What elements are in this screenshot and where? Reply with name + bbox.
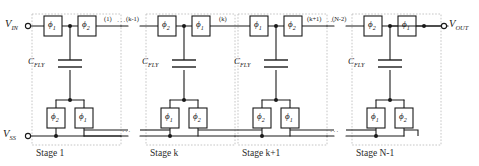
cap-label-sk1: CFLY <box>234 56 250 68</box>
stage-caption-1: Stage 1 <box>36 148 64 158</box>
switch-label-sn-top-left: ϕ2 <box>368 19 376 31</box>
ellipsis-bottom-right: ··· <box>330 128 340 135</box>
node-label-k: (k) <box>219 15 227 22</box>
ellipsis-top-right: ··· <box>327 18 337 25</box>
vss-label: VSS <box>3 128 16 141</box>
node-label-k-1: (k-1) <box>126 15 139 22</box>
switch-label-sk-bot-left: ϕ1 <box>165 111 173 123</box>
switch-label-sk1-bot-left: ϕ2 <box>257 111 265 123</box>
switch-label-s1-bot-left: ϕ2 <box>51 111 59 123</box>
stage-caption-k: Stage k <box>150 148 178 158</box>
stage-vertical-wires <box>70 26 390 100</box>
vin-label: VIN <box>5 18 18 31</box>
node-label-k1: (k+1) <box>307 15 322 22</box>
switch-label-sk-top-right: ϕ1 <box>196 19 204 31</box>
switch-label-sk-top-left: ϕ2 <box>162 19 170 31</box>
interstage-bottom-links <box>84 130 418 136</box>
bottom-switch-boxes <box>47 108 413 128</box>
switch-label-s1-bot-right: ϕ1 <box>79 111 87 123</box>
vout-label: VOUT <box>449 18 468 31</box>
cap-label-sk: CFLY <box>142 56 158 68</box>
switch-label-sk1-top-right: ϕ2 <box>288 19 296 31</box>
switch-label-sk1-top-left: ϕ1 <box>254 19 262 31</box>
switch-label-sn-top-right: ϕ1 <box>402 19 410 31</box>
node-label-1: (1) <box>104 15 112 22</box>
switch-label-s1-top-right: ϕ2 <box>82 19 90 31</box>
switch-label-sn-bot-right: ϕ2 <box>399 111 407 123</box>
ellipsis-top-left: ··· <box>117 18 127 25</box>
switch-label-s1-top-left: ϕ1 <box>48 19 56 31</box>
vout-terminal-node[interactable] <box>441 23 446 28</box>
stage-caption-k1: Stage k+1 <box>242 148 280 158</box>
cap-label-sn: CFLY <box>348 56 364 68</box>
cap-label-s1: CFLY <box>28 56 44 68</box>
switch-label-sk1-bot-right: ϕ1 <box>285 111 293 123</box>
vin-terminal-node[interactable] <box>25 23 30 28</box>
switch-label-sn-bot-left: ϕ1 <box>371 111 379 123</box>
ellipsis-bottom-left: ··· <box>122 128 132 135</box>
stage-caption-n1: Stage N-1 <box>356 148 394 158</box>
vss-terminal-node[interactable] <box>25 133 30 138</box>
switch-label-sk-bot-right: ϕ2 <box>193 111 201 123</box>
